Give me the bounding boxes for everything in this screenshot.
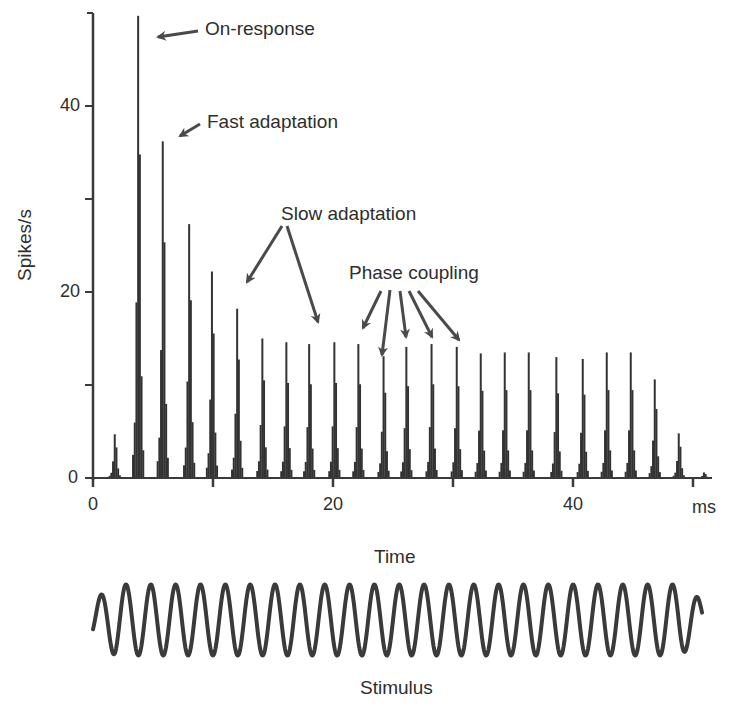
stimulus-sine-wave — [93, 585, 702, 656]
histogram-cluster — [256, 339, 268, 479]
y-tick-label-40: 40 — [60, 95, 80, 116]
annotation-arrow — [363, 291, 381, 328]
histogram-bin — [236, 309, 238, 478]
histogram-bin — [216, 466, 218, 478]
histogram-bin — [587, 471, 589, 478]
histogram-cluster — [206, 272, 218, 478]
histogram-bin — [313, 470, 315, 478]
histogram-bin — [115, 447, 117, 478]
histogram-cluster — [451, 347, 463, 478]
x-tick-label-20: 20 — [323, 494, 343, 515]
histogram-bin — [290, 470, 292, 478]
histogram-bin — [635, 470, 637, 478]
spike-histogram-chart — [0, 0, 733, 708]
histogram-bin — [338, 470, 340, 478]
histogram-bin — [213, 333, 215, 478]
histogram-bin — [266, 470, 268, 478]
histogram-bin — [461, 470, 463, 478]
axes — [85, 13, 712, 487]
histogram-cluster — [157, 141, 169, 478]
annotation-arrow — [247, 226, 282, 282]
histogram-bin — [533, 470, 535, 478]
histogram-bin — [188, 224, 190, 478]
histogram-bin — [509, 470, 511, 478]
annotation-arrow — [287, 226, 318, 322]
y-tick-label-0: 0 — [68, 467, 78, 488]
histogram-cluster — [231, 309, 243, 478]
histogram-cluster — [132, 16, 144, 478]
histogram-cluster — [377, 356, 389, 478]
histogram-bin — [611, 470, 613, 478]
histogram-cluster — [499, 352, 511, 478]
histogram-bin — [362, 470, 364, 478]
annotation-arrow — [158, 31, 198, 37]
x-tick-label-40: 40 — [563, 494, 583, 515]
annotation-fast-adaptation: Fast adaptation — [207, 111, 338, 133]
x-tick-label-0: 0 — [88, 494, 98, 515]
x-unit-label: ms — [692, 497, 716, 518]
histogram-cluster — [550, 357, 562, 478]
histogram-bin — [137, 16, 139, 478]
histogram-bin — [388, 471, 390, 478]
y-tick-label-20: 20 — [60, 281, 80, 302]
annotation-arrow — [409, 291, 432, 337]
histogram-bin — [560, 471, 562, 478]
annotation-arrow — [400, 291, 406, 337]
histogram-cluster — [425, 344, 437, 478]
annotation-arrows — [158, 31, 459, 355]
histogram-cluster — [625, 352, 637, 478]
histogram-cluster — [109, 434, 121, 478]
histogram-bin — [165, 404, 167, 478]
histogram-bin — [241, 468, 243, 478]
histogram-cluster — [475, 353, 487, 478]
annotation-phase-coupling: Phase coupling — [349, 262, 479, 284]
histogram-bin — [157, 461, 159, 478]
histogram-bin — [193, 463, 195, 478]
annotation-arrow — [180, 124, 200, 136]
annotation-on-response: On-response — [205, 18, 315, 40]
annotation-arrow — [418, 291, 459, 340]
annotation-arrow — [382, 290, 390, 355]
histogram-bars — [109, 16, 709, 478]
histogram-cluster — [183, 224, 195, 478]
histogram-bin — [167, 458, 169, 478]
histogram-cluster — [577, 359, 589, 478]
histogram-cluster — [303, 344, 315, 478]
histogram-cluster — [400, 347, 412, 478]
histogram-bin — [436, 470, 438, 478]
histogram-bin — [410, 470, 412, 478]
stimulus-label: Stimulus — [360, 677, 433, 699]
histogram-bin — [485, 471, 487, 478]
histogram-cluster — [673, 433, 685, 478]
y-axis-label: Spikes/s — [14, 209, 36, 281]
annotation-slow-adaptation: Slow adaptation — [281, 203, 416, 225]
x-axis-label: Time — [374, 546, 416, 568]
histogram-bin — [142, 450, 144, 478]
histogram-cluster — [352, 344, 364, 478]
histogram-cluster — [280, 342, 292, 478]
histogram-cluster — [328, 342, 340, 478]
histogram-cluster — [649, 379, 661, 478]
histogram-cluster — [523, 352, 535, 478]
histogram-cluster — [601, 352, 613, 478]
